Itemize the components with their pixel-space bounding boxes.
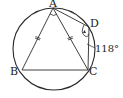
geometry-figure: A B C D 118° xyxy=(0,0,123,98)
label-point-c: C xyxy=(89,65,97,78)
circumcircle xyxy=(13,8,95,90)
arrow-head-icon xyxy=(83,30,86,33)
segment-dc xyxy=(88,27,89,70)
label-point-b: B xyxy=(10,65,18,78)
angle-arc-a xyxy=(50,14,57,16)
label-point-d: D xyxy=(90,17,99,30)
label-point-a: A xyxy=(48,0,58,10)
angle-annotation-118: 118° xyxy=(95,43,119,54)
angle-arc-d xyxy=(82,25,88,37)
